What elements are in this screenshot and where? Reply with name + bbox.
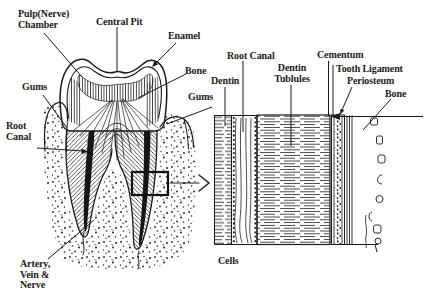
bone-right-leader-line — [363, 99, 391, 130]
dentin-band — [215, 116, 232, 245]
dentin-tubules-band — [257, 115, 330, 245]
label-bone-right: Bone — [385, 89, 406, 100]
label-gums-right: Gums — [188, 92, 213, 103]
label-gums-left: Gums — [22, 82, 47, 93]
diagram-drawing — [0, 0, 429, 307]
pulp-chamber-leader-line — [44, 33, 82, 77]
bone-cells — [365, 118, 385, 248]
tooth-cross-section — [43, 59, 209, 270]
ligament-periosteum-layers — [347, 116, 352, 245]
label-dentin-tubules: Dentin Tublules — [262, 63, 322, 84]
label-pulp-chamber: Pulp(Nerve) Chamber — [18, 9, 69, 30]
label-root-canal-right: Root Canal — [227, 51, 275, 62]
periosteum-leader-arrowhead — [340, 109, 344, 115]
label-bone-left: Bone — [185, 66, 206, 77]
label-cementum: Cementum — [317, 50, 363, 61]
label-cells: Cells — [218, 256, 239, 267]
label-dentin: Dentin — [211, 76, 239, 87]
magnified-panel — [215, 113, 424, 252]
label-root-canal-left: Root Canal — [6, 121, 31, 142]
label-periosteum: Periosteum — [347, 76, 394, 87]
label-tooth-ligament: Tooth Ligament — [336, 64, 403, 75]
tooth-anatomy-diagram: Pulp(Nerve) Chamber Central Pit Enamel B… — [0, 0, 429, 307]
enamel-leader-line — [156, 43, 176, 63]
label-enamel: Enamel — [168, 31, 200, 42]
periosteum-leader-line — [342, 87, 352, 110]
label-central-pit: Central Pit — [96, 17, 142, 28]
label-artery-vein-nerve: Artery, Vein & Nerve — [20, 259, 50, 291]
